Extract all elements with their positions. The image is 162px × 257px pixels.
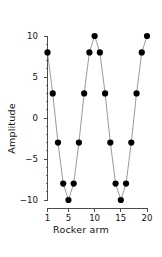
data-point: [102, 90, 108, 96]
data-point: [128, 140, 134, 146]
data-point: [44, 49, 50, 55]
data-point: [144, 33, 150, 39]
data-point: [123, 181, 129, 187]
data-point: [60, 181, 66, 187]
plot-area: [0, 0, 162, 257]
data-point: [55, 140, 61, 146]
data-point: [107, 140, 113, 146]
data-line: [48, 36, 148, 200]
data-point: [50, 90, 56, 96]
data-point: [97, 49, 103, 55]
data-point: [133, 90, 139, 96]
data-point: [65, 197, 71, 203]
chart-figure: Amplitude −10−50510 15101520 Rocker arm: [0, 0, 162, 257]
data-point: [86, 49, 92, 55]
data-point: [139, 49, 145, 55]
data-point: [81, 90, 87, 96]
data-point: [76, 140, 82, 146]
data-point: [71, 181, 77, 187]
data-point: [118, 197, 124, 203]
data-point: [92, 33, 98, 39]
data-point: [112, 181, 118, 187]
